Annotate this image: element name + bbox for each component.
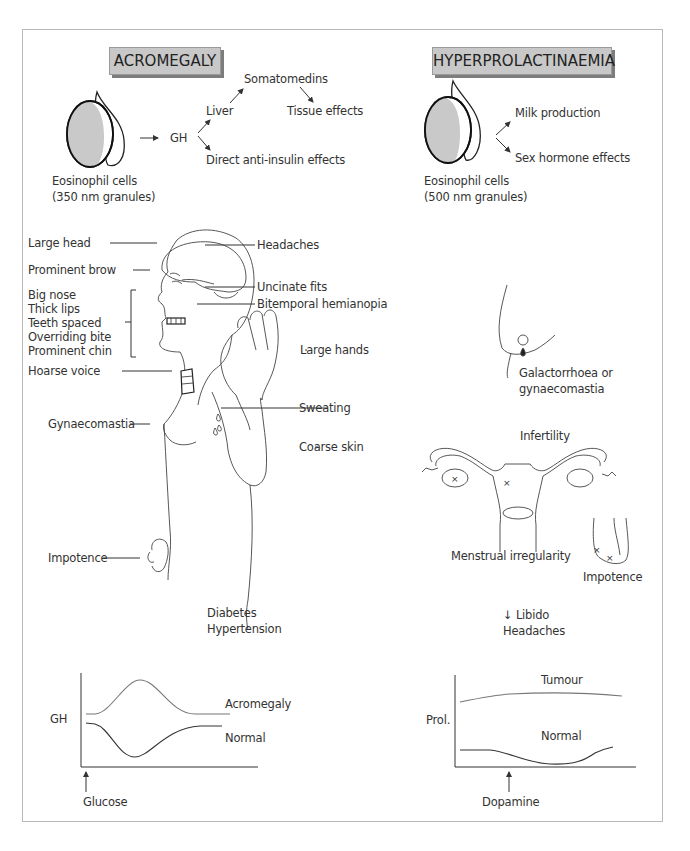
prol-axis-label: Prol. — [426, 713, 450, 728]
legend-normal-gh: Normal — [225, 731, 265, 746]
feature-impotence-hyper: Impotence — [583, 570, 642, 585]
legend-normal-prol: Normal — [541, 729, 581, 744]
feature-libido: ↓ Libido — [503, 608, 549, 623]
feature-uncinate-fits: Uncinate fits — [257, 280, 327, 295]
pituitary-acromegaly-icon — [67, 92, 124, 167]
feature-hoarse-voice: Hoarse voice — [28, 364, 100, 379]
svg-text:×: × — [503, 478, 511, 488]
feature-big-nose: Big nose — [28, 288, 76, 303]
series-normal — [86, 723, 222, 757]
feature-headaches: Headaches — [257, 238, 319, 253]
svg-text:×: × — [451, 474, 459, 484]
liver-label: Liver — [206, 104, 233, 119]
feature-overriding-bite: Overriding bite — [28, 330, 111, 345]
gh-label: GH — [170, 131, 187, 146]
feature-galactorrhoea: Galactorrhoea or — [519, 366, 613, 381]
acromegaly-title: ACROMEGALY — [109, 47, 221, 75]
feature-large-hands: Large hands — [300, 343, 369, 358]
feature-gynaecomastia: Gynaecomastia — [48, 417, 135, 432]
feature-headaches-hyper: Headaches — [503, 624, 565, 639]
feature-prominent-brow: Prominent brow — [28, 263, 116, 278]
feature-menstrual-irregularity: Menstrual irregularity — [451, 549, 571, 564]
anti-insulin-label: Direct anti-insulin effects — [206, 153, 345, 168]
hyperprolactinaemia-title: HYPERPROLACTINAEMIA — [432, 47, 612, 75]
systemic-hypertension: Hypertension — [207, 622, 282, 637]
feature-thick-lips: Thick lips — [28, 302, 80, 317]
svg-text:×: × — [606, 553, 614, 563]
testes-illustration: × × — [593, 518, 628, 564]
acro-cell-label: Eosinophil cells — [52, 174, 137, 189]
sex-hormone-label: Sex hormone effects — [515, 151, 630, 166]
milk-production-label: Milk production — [515, 106, 600, 121]
legend-acromegaly: Acromegaly — [225, 697, 291, 712]
feature-infertility: Infertility — [520, 429, 570, 444]
uterus-illustration: × × — [422, 448, 616, 552]
systemic-diabetes: Diabetes — [207, 606, 256, 621]
feature-teeth-spaced: Teeth spaced — [28, 316, 101, 331]
feature-bitemporal-hemianopia: Bitemporal hemianopia — [257, 297, 387, 312]
hyper-cell-granules: (500 nm granules) — [424, 190, 527, 205]
feature-large-head: Large head — [28, 236, 91, 251]
svg-text:×: × — [593, 545, 601, 555]
series-normal — [460, 747, 613, 764]
glucose-annotation: Glucose — [83, 795, 127, 810]
breast-illustration — [499, 285, 555, 378]
legend-tumour: Tumour — [541, 673, 583, 688]
feature-galactorrhoea-2: gynaecomastia — [519, 382, 604, 397]
feature-sweating: Sweating — [299, 401, 351, 416]
acro-cell-granules: (350 nm granules) — [52, 190, 155, 205]
feature-impotence: Impotence — [48, 551, 107, 566]
series-acromegaly — [86, 680, 230, 714]
somatomedins-label: Somatomedins — [244, 72, 328, 87]
dopamine-annotation: Dopamine — [482, 795, 539, 810]
feature-prominent-chin: Prominent chin — [28, 344, 112, 359]
pituitary-hyperprolactinaemia-icon — [425, 81, 480, 163]
tissue-effects-label: Tissue effects — [287, 104, 363, 119]
series-tumour — [460, 693, 622, 702]
feature-coarse-skin: Coarse skin — [299, 440, 364, 455]
gh-axis-label: GH — [50, 712, 67, 727]
hyper-cell-label: Eosinophil cells — [424, 174, 509, 189]
